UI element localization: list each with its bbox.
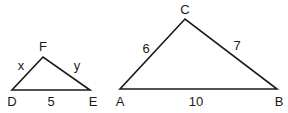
vertex-label-b: B [275, 94, 284, 109]
vertex-label-f: F [39, 39, 47, 54]
triangle-abc: A B C 6 7 10 [116, 2, 284, 109]
side-label-ac: 6 [142, 41, 149, 56]
vertex-label-d: D [7, 94, 16, 109]
triangle-def: D E F x y 5 [7, 39, 97, 109]
vertex-label-c: C [180, 2, 189, 17]
side-label-de: 5 [47, 94, 54, 109]
side-label-df: x [18, 58, 25, 73]
side-label-ef: y [74, 58, 81, 73]
side-label-ab: 10 [189, 94, 203, 109]
vertex-label-a: A [116, 94, 125, 109]
vertex-label-e: E [89, 94, 98, 109]
similar-triangles-diagram: D E F x y 5 A B C 6 7 10 [0, 0, 288, 113]
side-label-bc: 7 [233, 38, 240, 53]
diagram-svg: D E F x y 5 A B C 6 7 10 [0, 0, 288, 113]
